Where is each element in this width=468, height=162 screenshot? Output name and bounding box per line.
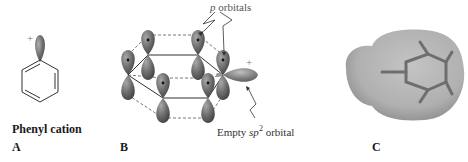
panel-b-orbital-diagram: p orbitals + Empty sp2 orbital B — [120, 0, 320, 162]
empty-orbital-lobe-icon — [35, 35, 45, 62]
benzene-ring-icon — [22, 60, 58, 102]
panel-letter-b: B — [120, 140, 128, 155]
panel-letter-c: C — [372, 140, 381, 155]
panel-c-potential-surface: C — [320, 0, 468, 162]
panel-a-phenyl-cation: + Phenyl cation A — [0, 0, 120, 162]
caption-phenyl-cation: Phenyl cation — [12, 122, 82, 137]
label-empty-sp2-orbital: Empty sp2 orbital — [217, 124, 294, 138]
panel-letter-a: A — [12, 140, 21, 155]
label-p-orbitals: p orbitals — [210, 1, 251, 13]
p-orbital-diagram — [120, 0, 320, 162]
positive-charge: + — [246, 56, 252, 68]
phenyl-cation-structure — [0, 0, 120, 162]
empty-sp2-orbital-lobe-icon — [223, 68, 258, 82]
electrostatic-surface-map — [320, 0, 468, 162]
positive-charge: + — [27, 32, 33, 44]
